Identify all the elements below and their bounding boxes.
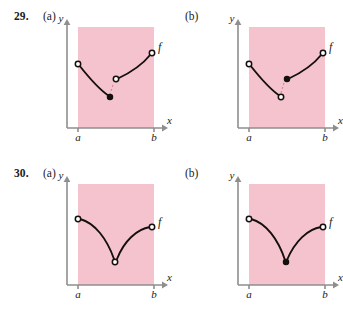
- figure-29a: 29. (a) y x a b f: [0, 0, 171, 156]
- function-label-f: f: [158, 215, 163, 229]
- y-axis-label: y: [58, 12, 64, 24]
- tick-label-b: b: [322, 131, 328, 143]
- open-point: [246, 216, 251, 221]
- tick-label-a: a: [75, 288, 81, 300]
- tick-label-a: a: [246, 288, 252, 300]
- closed-point: [107, 94, 112, 99]
- plot-29b: y x a b f: [171, 0, 342, 156]
- y-axis-label: y: [58, 169, 64, 181]
- open-point: [278, 94, 283, 99]
- open-point: [149, 224, 154, 229]
- open-point: [75, 61, 80, 66]
- y-axis-label: y: [229, 12, 235, 24]
- tick-label-b: b: [151, 288, 157, 300]
- figure-sheet: 29. (a) y x a b f (b): [0, 0, 343, 313]
- function-label-f: f: [329, 40, 334, 54]
- tick-label-a: a: [246, 131, 252, 143]
- shaded-region: [249, 184, 325, 285]
- open-point: [246, 61, 251, 66]
- tick-label-b: b: [322, 288, 328, 300]
- plot-30b: y x a b f: [171, 157, 342, 313]
- y-axis-arrow: [64, 176, 71, 182]
- tick-label-a: a: [75, 131, 81, 143]
- function-label-f: f: [329, 215, 334, 229]
- open-point: [149, 50, 154, 55]
- shaded-region: [78, 184, 154, 285]
- open-point-vertex: [112, 259, 117, 264]
- closed-point: [284, 76, 289, 81]
- plot-30a: y x a b f: [0, 157, 171, 313]
- function-label-f: f: [158, 40, 163, 54]
- open-point: [75, 216, 80, 221]
- figure-29b: (b) y x a b f: [171, 0, 342, 156]
- y-axis-label: y: [229, 169, 235, 181]
- closed-point-vertex: [283, 259, 288, 264]
- y-axis-arrow: [235, 176, 242, 182]
- open-point: [320, 50, 325, 55]
- x-axis-label: x: [337, 114, 343, 126]
- open-point: [113, 76, 118, 81]
- open-point: [320, 224, 325, 229]
- y-axis-arrow: [64, 19, 71, 25]
- plot-29a: y x a b f: [0, 0, 171, 156]
- y-axis-arrow: [235, 19, 242, 25]
- tick-label-b: b: [151, 131, 157, 143]
- x-axis-label: x: [337, 271, 343, 283]
- figure-30a: 30. (a) y x a b f: [0, 157, 171, 313]
- figure-30b: (b) y x a b f: [171, 157, 342, 313]
